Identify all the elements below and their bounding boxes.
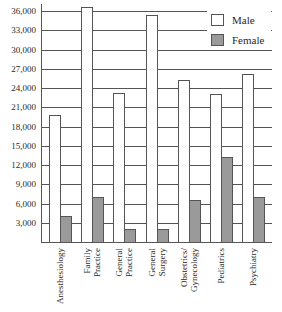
- x-tick-label: Anesthesiology: [55, 248, 65, 308]
- y-tick-label: 36,000: [0, 6, 36, 16]
- bar-chart: 3,0006,0009,00012,00015,00018,00021,0002…: [0, 0, 282, 312]
- bar-female: [253, 197, 265, 243]
- y-tick-label: 3,000: [0, 218, 36, 228]
- x-tick-label: Psychiatry: [248, 248, 258, 308]
- x-tick-label: GeneralSurgery: [147, 248, 167, 308]
- legend-swatch-female: [211, 34, 224, 46]
- legend: Male Female: [207, 8, 271, 50]
- bar-male: [113, 93, 125, 243]
- legend-label-male: Male: [232, 14, 255, 26]
- y-tick-label: 12,000: [0, 160, 36, 170]
- legend-swatch-male: [211, 14, 224, 26]
- legend-item-male: Male: [211, 13, 255, 27]
- y-tick-label: 9,000: [0, 179, 36, 189]
- x-tick-label: Obstetrics/Gynecology: [179, 248, 199, 308]
- y-tick-label: 21,000: [0, 102, 36, 112]
- bar-female: [221, 157, 233, 243]
- legend-label-female: Female: [232, 34, 264, 46]
- y-tick-label: 6,000: [0, 199, 36, 209]
- legend-item-female: Female: [211, 33, 264, 47]
- y-tick-label: 27,000: [0, 64, 36, 74]
- y-tick-label: 18,000: [0, 122, 36, 132]
- bar-female: [60, 216, 72, 243]
- bar-male: [146, 15, 158, 243]
- bar-female: [92, 197, 104, 243]
- y-axis: [41, 4, 42, 242]
- y-tick-label: 24,000: [0, 83, 36, 93]
- bar-female: [189, 200, 201, 243]
- y-tick-label: 33,000: [0, 25, 36, 35]
- y-tick-label: 30,000: [0, 45, 36, 55]
- x-tick-label: GeneralPractice: [114, 248, 134, 308]
- bar-female: [124, 229, 136, 243]
- x-tick-label: FamilyPractice: [82, 248, 102, 308]
- x-tick-label: Pediatrics: [216, 248, 226, 308]
- bar-female: [157, 229, 169, 243]
- y-tick-label: 15,000: [0, 141, 36, 151]
